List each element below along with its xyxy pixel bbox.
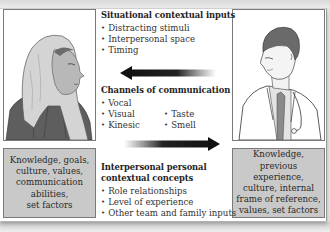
bottom-page-edge <box>0 222 330 232</box>
right-person-factors: Knowledge, previous experience, culture,… <box>232 148 325 218</box>
situational-title: Situational contextual inputs <box>101 10 235 21</box>
woman-headscarf-illustration <box>4 10 95 140</box>
situational-item: Timing <box>101 45 139 57</box>
left-person-panel <box>3 9 96 141</box>
face-shape <box>52 49 84 95</box>
left-person-factors: Knowledge, goals, culture, values, commu… <box>3 148 96 218</box>
doctor-illustration <box>233 10 324 140</box>
channels-title: Channels of communication <box>101 85 230 96</box>
channel-item: Kinesic <box>101 120 140 132</box>
interpersonal-title-line1: Interpersonal personal <box>101 162 207 173</box>
interpersonal-title-line2: contextual concepts <box>101 173 193 184</box>
interpersonal-item: Other team and family inputs <box>101 208 236 220</box>
left-factors-text: Knowledge, goals, culture, values, commu… <box>8 155 92 211</box>
top-page-edge <box>0 0 330 8</box>
right-person-panel <box>232 9 325 141</box>
right-factors-text: Knowledge, previous experience, culture,… <box>233 149 324 216</box>
right-arrow-icon <box>124 137 220 151</box>
channel-item: Smell <box>164 120 196 132</box>
left-arrow-icon <box>120 66 216 80</box>
